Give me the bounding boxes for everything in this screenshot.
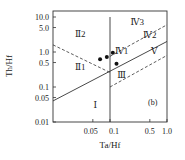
x-tick-label: 0.1 — [109, 127, 119, 136]
region-label: Ⅰ — [93, 100, 97, 110]
y-tick-label: 10.0 — [35, 13, 49, 22]
data-point — [105, 55, 109, 59]
x-axis-title: Ta/Hf — [100, 140, 121, 150]
region-label: Ⅲ — [117, 70, 126, 80]
x-tick-label: 0.5 — [145, 127, 155, 136]
y-tick-label: 1.0 — [39, 48, 49, 57]
plot-area: ⅠⅡ1Ⅱ2ⅢⅣ1Ⅳ2Ⅳ3Ⅴ 0.050.10.51.0 10.05.01.00.… — [35, 11, 172, 136]
region-label: Ⅳ1 — [115, 46, 129, 56]
region-label: Ⅳ2 — [143, 30, 157, 40]
y-axis-title: Th/Hf — [4, 55, 14, 77]
region-label: Ⅱ1 — [75, 62, 86, 72]
region-label: Ⅳ3 — [130, 17, 144, 27]
y-tick-label: 0.05 — [35, 94, 49, 103]
x-tick-label: 0.05 — [84, 127, 98, 136]
region-label: Ⅱ2 — [75, 29, 86, 39]
y-tick-label: 0.5 — [39, 59, 49, 68]
panel-label: (b) — [148, 98, 158, 107]
region-label: Ⅴ — [150, 46, 158, 56]
y-tick-label: 0.1 — [39, 83, 49, 92]
y-tick-label: 5.0 — [39, 24, 49, 33]
tectonic-discrimination-chart: ⅠⅡ1Ⅱ2ⅢⅣ1Ⅳ2Ⅳ3Ⅴ 0.050.10.51.0 10.05.01.00.… — [0, 0, 185, 160]
data-point — [98, 57, 102, 61]
y-tick-label: 0.01 — [35, 118, 49, 127]
data-point — [114, 62, 118, 66]
x-tick-label: 1.0 — [162, 127, 172, 136]
